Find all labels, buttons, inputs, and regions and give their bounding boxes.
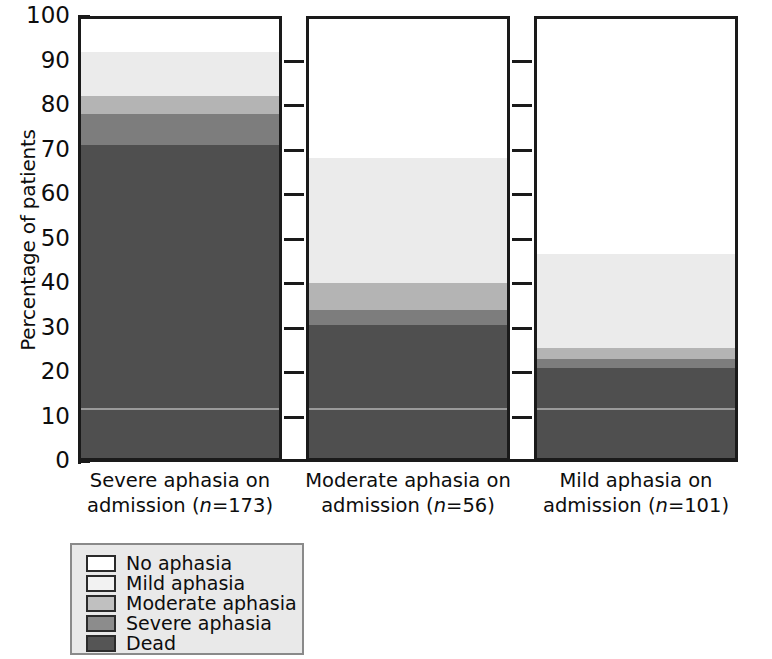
x-category-label: Moderate aphasia onadmission (n=56) xyxy=(282,468,534,518)
y-tick-label-30: 30 xyxy=(12,316,70,339)
legend-item[interactable]: Dead xyxy=(86,633,176,654)
x-category-label-line: admission (n=56) xyxy=(282,493,534,518)
x-category-label: Mild aphasia onadmission (n=101) xyxy=(510,468,762,518)
bar-segment[interactable] xyxy=(81,52,279,97)
legend-item[interactable]: Mild aphasia xyxy=(86,573,245,594)
bar-panel[interactable] xyxy=(534,16,738,461)
bar-segment[interactable] xyxy=(309,16,507,158)
reference-line xyxy=(81,408,279,410)
sample-size-symbol: n xyxy=(434,494,446,517)
chart-figure: Percentage of patients 10090807060504030… xyxy=(0,0,772,659)
x-category-label-line: admission (n=173) xyxy=(54,493,306,518)
plot-area xyxy=(78,16,738,461)
bar-segment[interactable] xyxy=(537,254,735,347)
y-tick-label-50: 50 xyxy=(12,227,70,250)
legend-label: Moderate aphasia xyxy=(126,594,297,613)
bar-panel[interactable] xyxy=(78,16,282,461)
legend-swatch xyxy=(86,575,116,592)
legend-swatch xyxy=(86,635,116,652)
bar-segment[interactable] xyxy=(537,16,735,254)
y-tick-label-90: 90 xyxy=(12,49,70,72)
sample-size-symbol: n xyxy=(656,494,668,517)
y-tick-label-100: 100 xyxy=(12,4,70,27)
legend-swatch xyxy=(86,615,116,632)
y-tick-label-40: 40 xyxy=(12,271,70,294)
x-category-label-line: Mild aphasia on xyxy=(510,468,762,493)
legend-item[interactable]: No aphasia xyxy=(86,553,232,574)
x-category-label-line: Severe aphasia on xyxy=(54,468,306,493)
legend-swatch xyxy=(86,595,116,612)
legend-swatch xyxy=(86,555,116,572)
sample-size-symbol: n xyxy=(200,494,212,517)
bar-segment[interactable] xyxy=(309,310,507,326)
x-category-label-line: admission (n=101) xyxy=(510,493,762,518)
legend-label: Mild aphasia xyxy=(126,574,245,593)
legend-item[interactable]: Moderate aphasia xyxy=(86,593,297,614)
reference-line xyxy=(537,408,735,410)
y-tick-label-80: 80 xyxy=(12,93,70,116)
y-tick-label-10: 10 xyxy=(12,405,70,428)
y-axis-tick-labels: 1009080706050403020100 xyxy=(12,0,70,480)
reference-line xyxy=(309,408,507,410)
y-tick-label-70: 70 xyxy=(12,138,70,161)
chart-legend: No aphasiaMild aphasiaModerate aphasiaSe… xyxy=(70,543,304,655)
bar-segment[interactable] xyxy=(537,368,735,461)
bar-segment[interactable] xyxy=(309,158,507,283)
y-tick-label-20: 20 xyxy=(12,360,70,383)
bar-segment[interactable] xyxy=(81,16,279,52)
y-tick-label-60: 60 xyxy=(12,182,70,205)
bar-segment[interactable] xyxy=(537,348,735,359)
x-category-label-line: Moderate aphasia on xyxy=(282,468,534,493)
bar-segment[interactable] xyxy=(81,145,279,461)
x-category-label: Severe aphasia onadmission (n=173) xyxy=(54,468,306,518)
bar-segment[interactable] xyxy=(309,325,507,461)
bar-segment[interactable] xyxy=(537,359,735,368)
legend-label: No aphasia xyxy=(126,554,232,573)
legend-label: Dead xyxy=(126,634,176,653)
bar-segment[interactable] xyxy=(81,114,279,145)
legend-label: Severe aphasia xyxy=(126,614,272,633)
bar-segment[interactable] xyxy=(309,283,507,310)
bar-segment[interactable] xyxy=(81,96,279,114)
legend-item[interactable]: Severe aphasia xyxy=(86,613,272,634)
bar-panel[interactable] xyxy=(306,16,510,461)
